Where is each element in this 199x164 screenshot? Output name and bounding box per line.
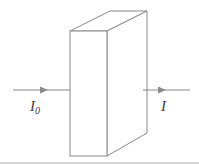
slab-diagram-svg: [0, 0, 199, 164]
figure-container: I0 I: [0, 0, 199, 164]
incident-beam-subscript: 0: [35, 105, 40, 116]
incident-beam-label: I0: [30, 99, 40, 114]
slab-front-face: [70, 31, 107, 156]
bottom-divider: [0, 162, 199, 164]
transmitted-beam-label: I: [161, 99, 166, 114]
slab-right-face: [107, 11, 147, 156]
incident-beam-arrowhead: [40, 87, 48, 94]
transmitted-beam-arrowhead: [158, 87, 166, 94]
transmitted-beam-symbol: I: [161, 98, 166, 114]
